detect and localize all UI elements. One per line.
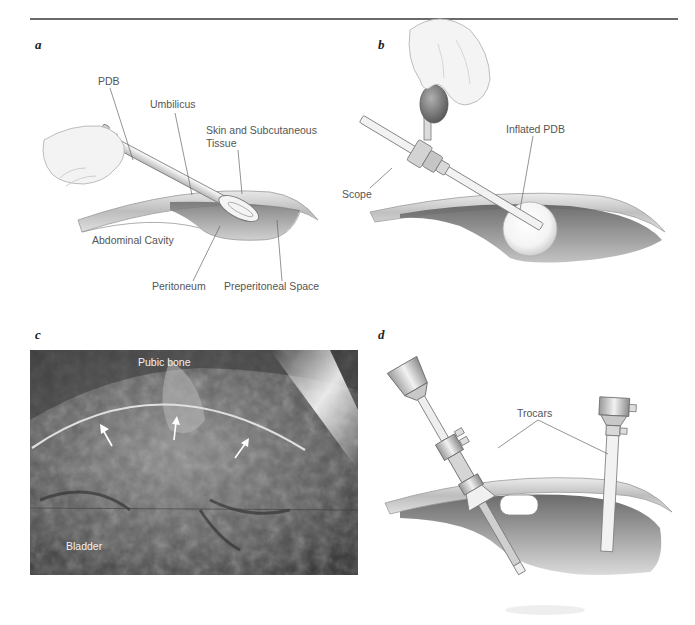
panel-a-illustration: PDB Umbilicus Skin and Subcutaneous Tiss… [0,0,348,320]
label-pdb: PDB [98,75,120,87]
label-inflated-pdb: Inflated PDB [506,123,565,135]
label-abdominal-cavity: Abdominal Cavity [92,234,174,246]
label-skin: Skin and Subcutaneous [206,124,317,136]
panel-c-photo: Pubic bone Bladder [30,350,358,575]
panel-d-illustration: Trocars [360,320,695,625]
label-preperitoneal-space: Preperitoneal Space [224,280,319,292]
panel-b-illustration: Scope Inflated PDB [340,0,695,320]
label-trocars: Trocars [517,407,552,419]
panel-letter-c: c [35,327,41,343]
label-bladder: Bladder [66,540,103,552]
label-tissue: Tissue [206,137,237,149]
label-scope: Scope [342,188,372,200]
label-peritoneum: Peritoneum [152,280,206,292]
label-pubic-bone: Pubic bone [138,356,191,368]
label-umbilicus: Umbilicus [150,98,196,110]
